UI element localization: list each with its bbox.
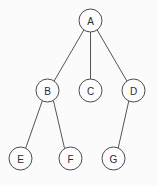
node-e[interactable]: E (9, 147, 32, 170)
node-c[interactable]: C (79, 79, 102, 102)
node-label-e: E (17, 154, 24, 165)
node-label-b: B (44, 86, 51, 97)
node-label-f: F (67, 154, 73, 165)
edge-a-b (54, 30, 84, 81)
node-label-c: C (87, 86, 94, 97)
node-label-a: A (87, 16, 94, 27)
edge-d-g (118, 101, 129, 148)
edge-b-e (26, 101, 43, 148)
node-d[interactable]: D (122, 79, 145, 102)
tree-diagram: ABCDEFG (0, 0, 157, 186)
node-f[interactable]: F (59, 147, 82, 170)
nodes-group: ABCDEFG (9, 9, 145, 170)
edge-b-f (53, 100, 64, 148)
diagram-canvas: ABCDEFG (0, 0, 157, 186)
node-label-d: D (130, 86, 137, 97)
node-a[interactable]: A (79, 9, 102, 32)
node-b[interactable]: B (36, 79, 59, 102)
node-g[interactable]: G (102, 147, 125, 170)
edge-a-d (97, 30, 127, 81)
node-label-g: G (110, 154, 118, 165)
